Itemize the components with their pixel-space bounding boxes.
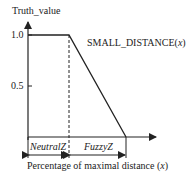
fuzzy-zone-label: FuzzyZ [84,142,113,152]
y-tick-label-0.5: 0.5 [11,81,24,91]
y-axis-label: Truth_value [12,6,61,16]
small-distance-curve [28,35,126,137]
x-axis-label: Percentage of maximal distance (x) [27,161,168,171]
y-tick-label-1: 1.0 [11,30,24,40]
neutral-zone-label: NeutralZ [30,142,66,152]
function-label: SMALL_DISTANCE(x) [87,38,186,48]
